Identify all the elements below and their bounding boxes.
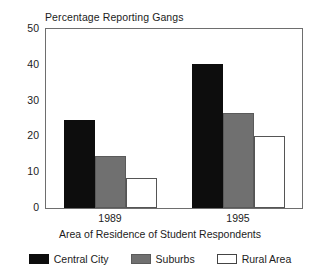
bars-layer — [46, 29, 302, 208]
bar-chart-figure: Percentage Reporting Gangs 01020304050 1… — [0, 0, 320, 278]
legend-item-rural-area: Rural Area — [217, 254, 292, 265]
bar-1989-central-city — [64, 120, 95, 208]
black-swatch — [29, 254, 49, 264]
bar-1989-suburbs — [95, 156, 126, 208]
legend-label: Suburbs — [156, 254, 195, 265]
legend-label: Rural Area — [242, 254, 292, 265]
x-axis-title: Area of Residence of Student Respondents — [0, 228, 320, 241]
x-axis-label-1995: 1995 — [174, 212, 302, 224]
legend-item-central-city: Central City — [29, 254, 109, 265]
gray-swatch — [131, 254, 151, 264]
legend-label: Central City — [54, 254, 109, 265]
y-axis-tick-label: 0 — [33, 202, 39, 213]
bar-1995-suburbs — [223, 113, 254, 208]
chart-title: Percentage Reporting Gangs — [45, 11, 184, 24]
bar-1989-rural-area — [126, 178, 157, 208]
chart-legend: Central CitySuburbsRural Area — [0, 251, 320, 267]
y-axis-tick-label: 10 — [27, 166, 39, 177]
y-axis-tick-label: 50 — [27, 23, 39, 34]
white-swatch — [217, 254, 237, 264]
y-axis-tick-label: 40 — [27, 59, 39, 70]
bar-1995-rural-area — [254, 136, 285, 208]
y-axis-tick-label: 30 — [27, 95, 39, 106]
x-axis-label-1989: 1989 — [46, 212, 174, 224]
legend-item-suburbs: Suburbs — [131, 254, 195, 265]
bar-1995-central-city — [192, 64, 223, 208]
x-axis-category-labels: 19891995 — [45, 212, 303, 226]
y-axis-tick-label: 20 — [27, 130, 39, 141]
